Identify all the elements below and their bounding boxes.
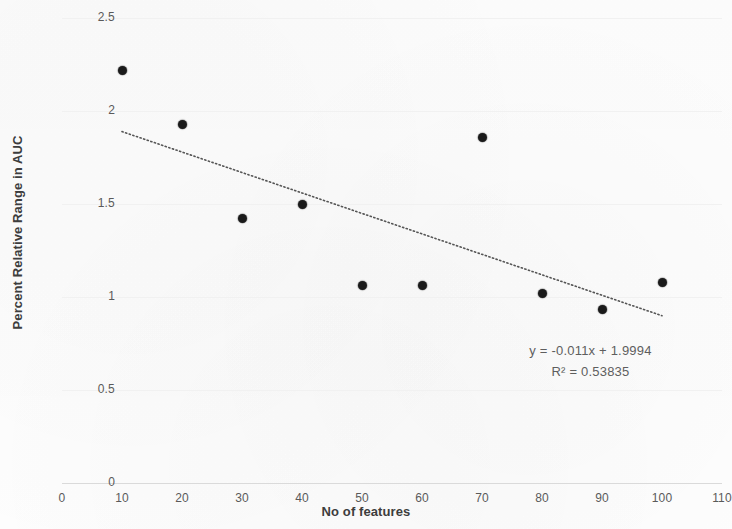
x-tick-label: 70 [475, 491, 489, 505]
y-axis-title: Percent Relative Range in AUC [6, 0, 30, 465]
r-squared-text: R² = 0.53835 [498, 361, 683, 382]
data-point [478, 133, 487, 142]
y-axis-title-label: Percent Relative Range in AUC [11, 136, 26, 330]
x-tick-label: 0 [59, 491, 66, 505]
data-point [118, 66, 127, 75]
x-tick-label: 10 [115, 491, 129, 505]
data-point [538, 289, 547, 298]
x-axis-line [62, 483, 722, 484]
y-tick: 0 [62, 483, 115, 484]
plot-area: 00.511.522.5 0102030405060708090100110 [62, 18, 722, 483]
data-point [238, 214, 247, 223]
trendline-annotation: y = -0.011x + 1.9994 R² = 0.53835 [498, 340, 683, 383]
scatter-chart: Percent Relative Range in AUC 00.511.522… [0, 0, 732, 529]
x-tick-label: 100 [652, 491, 673, 505]
x-axis-title: No of features [0, 504, 732, 519]
data-point [598, 305, 607, 314]
data-point [178, 120, 187, 129]
data-point [418, 281, 427, 290]
x-tick-label: 90 [595, 491, 609, 505]
trendline-path [122, 132, 662, 316]
x-tick-label: 50 [355, 491, 369, 505]
x-tick-label: 40 [295, 491, 309, 505]
x-tick-label: 60 [415, 491, 429, 505]
data-point [658, 278, 667, 287]
equation-text: y = -0.011x + 1.9994 [498, 340, 683, 361]
x-tick-label: 30 [235, 491, 249, 505]
x-tick-label: 20 [175, 491, 189, 505]
data-point [358, 281, 367, 290]
data-point [298, 200, 307, 209]
x-tick-label: 80 [535, 491, 549, 505]
trendline [62, 18, 722, 483]
x-tick-label: 110 [712, 491, 732, 505]
